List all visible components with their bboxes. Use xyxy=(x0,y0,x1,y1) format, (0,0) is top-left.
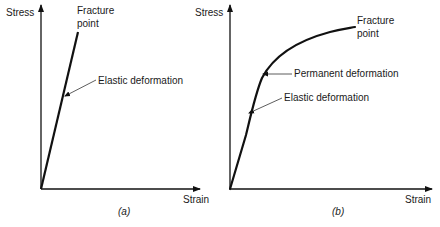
fracture-label-a-1: Fracture xyxy=(77,5,115,16)
stress-label-a: Stress xyxy=(6,7,34,18)
figure-a: Stress Fracture point Elastic deformatio… xyxy=(6,5,209,217)
elastic-label-b: Elastic deformation xyxy=(284,92,369,103)
strain-label-a: Strain xyxy=(183,194,209,205)
fracture-label-b-2: point xyxy=(357,28,379,39)
fracture-label-b-1: Fracture xyxy=(357,15,395,26)
elastic-label-a: Elastic deformation xyxy=(98,75,183,86)
elastic-leader-a xyxy=(65,80,96,96)
permanent-label-b: Permanent deformation xyxy=(294,68,399,79)
figure-b: Stress Fracture point Permanent deformat… xyxy=(195,5,432,217)
stress-label-b: Stress xyxy=(195,7,223,18)
fracture-label-a-2: point xyxy=(77,18,99,29)
caption-b: (b) xyxy=(332,206,344,217)
strain-label-b: Strain xyxy=(405,194,431,205)
stress-strain-curve-b xyxy=(230,27,355,189)
stress-strain-diagram: Stress Fracture point Elastic deformatio… xyxy=(0,0,440,227)
elastic-line-a xyxy=(41,32,78,189)
caption-a: (a) xyxy=(118,206,130,217)
